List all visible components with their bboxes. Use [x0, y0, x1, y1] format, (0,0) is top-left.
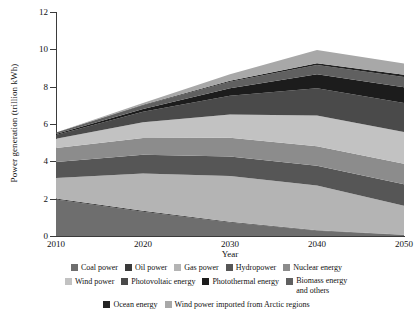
x-tick-label: 2010 — [34, 239, 78, 249]
legend-item-label: Photovoltaic energy — [131, 276, 195, 287]
legend-item-label: Ocean energy — [113, 299, 157, 310]
legend-item[interactable]: Nuclear energy — [283, 262, 342, 273]
legend-swatch-icon — [165, 301, 172, 308]
legend-item-label: Hydropower — [236, 262, 276, 273]
legend-row: Ocean energyWind power imported from Arc… — [0, 299, 413, 310]
legend-swatch-icon — [65, 278, 72, 285]
legend-swatch-icon — [121, 278, 128, 285]
legend-item[interactable]: Gas power — [174, 262, 218, 273]
legend-item[interactable]: Photovoltaic energy — [121, 276, 195, 287]
legend-item[interactable]: Photothermal energy — [202, 276, 279, 287]
legend-item-label: Photothermal energy — [212, 276, 279, 287]
legend-swatch-icon — [286, 278, 293, 285]
legend-item[interactable]: Oil power — [125, 262, 167, 273]
legend-swatch-icon — [103, 301, 110, 308]
y-tick-label: 4 — [0, 156, 48, 166]
legend-item-label: Biomass energy and others — [296, 276, 348, 296]
y-tick-label: 10 — [0, 44, 48, 54]
legend-item[interactable]: Coal power — [71, 262, 118, 273]
stacked-area-plot — [56, 12, 404, 236]
x-axis-label: Year — [56, 249, 404, 259]
legend-item[interactable]: Wind power — [65, 276, 114, 287]
y-tick-label: 12 — [0, 7, 48, 17]
legend-row: Wind powerPhotovoltaic energyPhototherma… — [0, 276, 413, 296]
legend-row: Coal powerOil powerGas powerHydropowerNu… — [0, 262, 413, 273]
x-tick-label: 2050 — [382, 239, 418, 249]
legend-swatch-icon — [71, 264, 78, 271]
chart-legend: Coal powerOil powerGas powerHydropowerNu… — [0, 262, 413, 313]
y-tick-label: 6 — [0, 119, 48, 129]
legend-item-label: Gas power — [184, 262, 218, 273]
legend-item-label: Oil power — [135, 262, 167, 273]
legend-swatch-icon — [125, 264, 132, 271]
legend-swatch-icon — [226, 264, 233, 271]
plot-area — [56, 12, 404, 236]
y-tick-label: 8 — [0, 82, 48, 92]
legend-item[interactable]: Hydropower — [226, 262, 276, 273]
legend-item[interactable]: Wind power imported from Arctic regions — [165, 299, 310, 310]
legend-item[interactable]: Biomass energy and others — [286, 276, 348, 296]
legend-swatch-icon — [202, 278, 209, 285]
legend-item-label: Wind power — [75, 276, 114, 287]
x-tick-label: 2020 — [121, 239, 165, 249]
legend-swatch-icon — [174, 264, 181, 271]
legend-item[interactable]: Ocean energy — [103, 299, 157, 310]
x-tick-label: 2030 — [208, 239, 252, 249]
legend-item-label: Coal power — [81, 262, 118, 273]
legend-item-label: Wind power imported from Arctic regions — [175, 299, 310, 310]
y-tick-label: 2 — [0, 194, 48, 204]
x-tick-label: 2040 — [295, 239, 339, 249]
legend-swatch-icon — [283, 264, 290, 271]
legend-item-label: Nuclear energy — [293, 262, 342, 273]
x-axis-line — [56, 236, 405, 237]
